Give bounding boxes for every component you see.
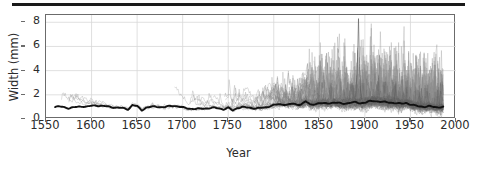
y-tick-mark <box>21 70 25 71</box>
x-tick-mark <box>364 118 365 122</box>
x-tick-mark <box>409 118 410 122</box>
figure-container: 02468 1550160016501700175018001850190019… <box>0 0 477 170</box>
x-tick-mark <box>273 118 274 122</box>
x-tick-mark <box>91 118 92 122</box>
y-tick-mark <box>21 21 25 22</box>
x-axis-title: Year <box>0 146 477 160</box>
x-axis-ticks: 1550160016501700175018001850190019502000 <box>0 0 477 170</box>
x-tick-mark <box>455 118 456 122</box>
x-tick-mark <box>182 118 183 122</box>
y-axis-title: Width (mm) <box>7 22 21 112</box>
x-tick-mark <box>45 118 46 122</box>
x-tick-mark <box>227 118 228 122</box>
x-tick-mark <box>318 118 319 122</box>
y-tick-mark <box>21 118 25 119</box>
y-tick-mark <box>21 94 25 95</box>
y-tick-mark <box>21 45 25 46</box>
x-tick-mark <box>136 118 137 122</box>
